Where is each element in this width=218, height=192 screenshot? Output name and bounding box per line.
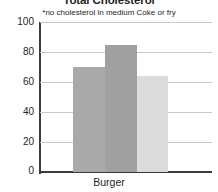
bar-2 [105,45,137,173]
y-tick-label-40: 40 [0,107,34,117]
chart-title: Total Cholesterol [0,0,218,6]
y-tick-label-60: 60 [0,77,34,87]
y-tick-label-20: 20 [0,137,34,147]
bar-1 [73,67,105,172]
gridline-100 [40,22,212,23]
plot-area [40,22,212,172]
chart-container: Total Cholesterol *no cholesterol in med… [0,0,218,192]
x-axis-category-label: Burger [0,175,218,189]
y-tick-label-100: 100 [0,17,34,27]
y-tick-label-80: 80 [0,47,34,57]
bar-3 [137,76,168,172]
